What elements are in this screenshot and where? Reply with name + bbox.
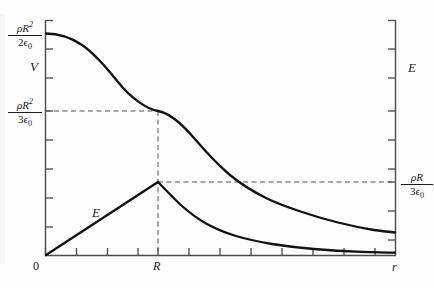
x-axis-title: r bbox=[392, 260, 397, 275]
y-left-top-denominator: 2ϵ0 bbox=[8, 36, 42, 52]
curve-label-e: E bbox=[92, 205, 100, 221]
y-left-tick-label-top: ρR2 2ϵ0 bbox=[8, 21, 42, 52]
y-axis-left-title: V bbox=[30, 60, 38, 73]
y-left-top-numerator: ρR2 bbox=[8, 21, 42, 36]
x-axis-radius-label: R bbox=[153, 259, 160, 274]
y-right-numerator: ρR bbox=[401, 170, 433, 185]
x-axis-origin-label: 0 bbox=[33, 259, 39, 274]
y-left-mid-numerator: ρR2 bbox=[8, 98, 42, 113]
y-left-mid-denominator: 3ϵ0 bbox=[8, 113, 42, 129]
y-right-denominator: 3ϵ0 bbox=[401, 185, 433, 201]
figure-canvas: ρR2 2ϵ0 ρR2 3ϵ0 ρR 3ϵ0 V E r 0 R E bbox=[0, 0, 434, 288]
plot-area bbox=[0, 0, 434, 288]
y-axis-right-title: E bbox=[408, 61, 416, 74]
y-right-tick-label: ρR 3ϵ0 bbox=[401, 170, 433, 201]
y-axis-left-ticks bbox=[46, 21, 54, 228]
curve-potential-v bbox=[46, 34, 395, 233]
curve-field-e bbox=[46, 182, 158, 255]
curve-field-e-outside bbox=[158, 182, 395, 253]
y-axis-right-ticks bbox=[388, 21, 396, 241]
y-left-tick-label-mid: ρR2 3ϵ0 bbox=[8, 98, 42, 129]
